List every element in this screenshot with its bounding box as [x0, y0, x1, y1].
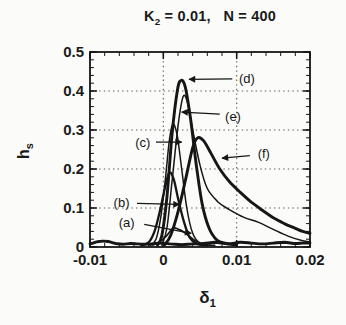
- curve-label-c: (c): [135, 135, 150, 150]
- arrow-e: [182, 112, 220, 114]
- curve-label-a: (a): [119, 215, 135, 230]
- y-tick-label: 0.4: [40, 82, 84, 100]
- figure-chart: K2 = 0.01, N = 400 hs δ1 00.10.20.30.40.…: [0, 0, 346, 325]
- x-tick-label: -0.01: [63, 251, 117, 269]
- curve-baseline: [90, 241, 310, 245]
- x-label-subscript: 1: [209, 297, 215, 309]
- y-tick-label: 0.2: [40, 160, 84, 178]
- x-label-base: δ: [199, 288, 209, 307]
- curve-label-d: (d): [239, 71, 255, 86]
- title-values: = 0.01, N = 400: [160, 8, 276, 24]
- y-label-subscript: s: [23, 143, 35, 149]
- curve-label-b: (b): [114, 195, 130, 210]
- curve-d: [158, 80, 237, 245]
- curve-label-e: (e): [225, 108, 241, 123]
- y-axis-label: hs: [15, 131, 41, 171]
- arrow-f: [222, 156, 250, 158]
- x-tick-label: 0: [136, 251, 190, 269]
- chart-title: K2 = 0.01, N = 400: [90, 8, 330, 27]
- y-label-base: h: [15, 149, 32, 159]
- arrow-b: [137, 203, 180, 204]
- x-tick-label: 0.01: [210, 251, 264, 269]
- title-variable: K: [144, 8, 155, 24]
- x-tick-label: 0.02: [283, 251, 337, 269]
- y-tick-label: 0.1: [40, 199, 84, 217]
- y-tick-label: 0.3: [40, 121, 84, 139]
- curve-label-f: (f): [258, 146, 270, 161]
- y-tick-label: 0.5: [40, 43, 84, 61]
- x-axis-label: δ1: [90, 288, 325, 309]
